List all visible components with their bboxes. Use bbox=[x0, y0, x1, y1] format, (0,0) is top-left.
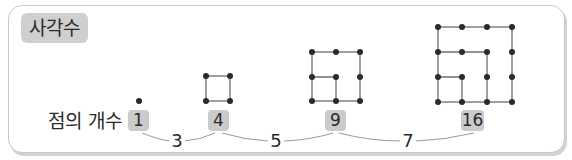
figure-4-square bbox=[203, 73, 233, 104]
figure-1-dot bbox=[136, 98, 142, 104]
difference-3: 3 bbox=[169, 130, 185, 152]
square-number-figures bbox=[0, 0, 572, 160]
figure-9-square bbox=[309, 49, 363, 104]
count-box-9: 9 bbox=[325, 110, 346, 131]
difference-5: 5 bbox=[268, 130, 284, 152]
count-box-16: 16 bbox=[461, 110, 484, 131]
difference-7: 7 bbox=[400, 130, 416, 152]
count-box-1: 1 bbox=[128, 110, 149, 131]
difference-connectors bbox=[142, 133, 474, 141]
figure-16-square bbox=[435, 24, 515, 105]
count-box-4: 4 bbox=[208, 110, 229, 131]
